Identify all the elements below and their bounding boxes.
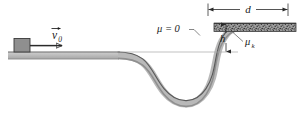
- kinetic-friction-label: μ: [244, 36, 250, 47]
- velocity-label-subscript: 0: [58, 35, 62, 44]
- frictionless-label: μ = 0: [156, 23, 181, 34]
- kinetic-friction-subscript: k: [252, 42, 256, 50]
- physics-diagram-figure: v 0 μ = 0 μ k d h: [0, 0, 300, 116]
- velocity-label-vector-bar-head: [58, 27, 61, 30]
- velocity-label: v: [52, 29, 58, 41]
- frictionless-label-group: μ = 0: [156, 23, 200, 36]
- velocity-label-group: v 0: [52, 27, 63, 44]
- dimension-d-group: d: [208, 3, 288, 16]
- left-platform-band: [8, 52, 120, 59]
- dimension-d-label: d: [245, 3, 251, 15]
- kinetic-friction-label-group: μ k: [233, 33, 256, 50]
- sliding-block: [14, 39, 30, 53]
- frictionless-leader-line: [189, 30, 200, 36]
- kinetic-friction-leader-line: [233, 33, 243, 42]
- diagram-canvas: v 0 μ = 0 μ k d h: [0, 0, 300, 116]
- dimension-h-label: h: [220, 33, 225, 44]
